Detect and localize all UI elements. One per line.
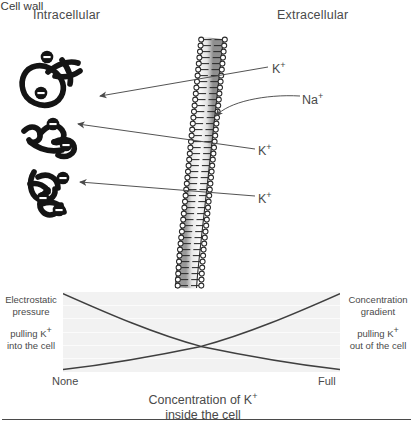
arrow-potassium-influx-top <box>100 67 268 96</box>
legend-right-line1: Concentration <box>344 294 412 306</box>
cell-membrane-bilayer <box>175 37 227 288</box>
legend-left-line3: pulling K+ <box>2 325 60 340</box>
bottom-divider <box>2 419 411 420</box>
legend-left-line4: into the cell <box>2 340 60 352</box>
legend-right-line3: pulling K+ <box>344 325 412 340</box>
arrow-potassium-influx-middle <box>78 124 255 149</box>
legend-right-line3-text: pulling K <box>357 328 393 339</box>
legend-right-line4: out of the cell <box>344 340 412 352</box>
legend-right-line2: gradient <box>344 306 412 318</box>
diagram-canvas: Intracellular Extracellular Cell wall K+… <box>0 0 413 428</box>
legend-left-line3-text: pulling K <box>10 328 46 339</box>
graph-curves <box>63 292 340 372</box>
curve-concentration-gradient <box>63 294 340 370</box>
legend-left-line2: pressure <box>2 306 60 318</box>
graph-legend-right: Concentration gradient pulling K+ out of… <box>344 294 412 351</box>
arrow-sodium-influx <box>216 96 300 116</box>
legend-left-line1: Electrostatic <box>2 294 60 306</box>
legend-left-line3-sup: + <box>47 325 52 335</box>
intracellular-anion-1 <box>22 60 80 105</box>
anion-charge-badges-2 <box>47 118 73 152</box>
graph-legend-left: Electrostatic pressure pulling K+ into t… <box>2 294 60 351</box>
curve-electrostatic-pressure <box>63 294 340 370</box>
x-axis-title-sup: + <box>252 391 257 401</box>
x-axis-tick-left: None <box>52 375 78 387</box>
anion-charge-badges-1 <box>35 51 54 100</box>
x-axis-tick-right: Full <box>318 375 336 387</box>
legend-right-line3-sup: + <box>394 325 399 335</box>
graph-plot-area <box>63 292 340 372</box>
x-axis-title-line1: Concentration of K <box>149 393 253 407</box>
arrow-potassium-influx-bottom <box>80 182 255 196</box>
x-axis-title-line2: inside the cell <box>165 408 241 422</box>
